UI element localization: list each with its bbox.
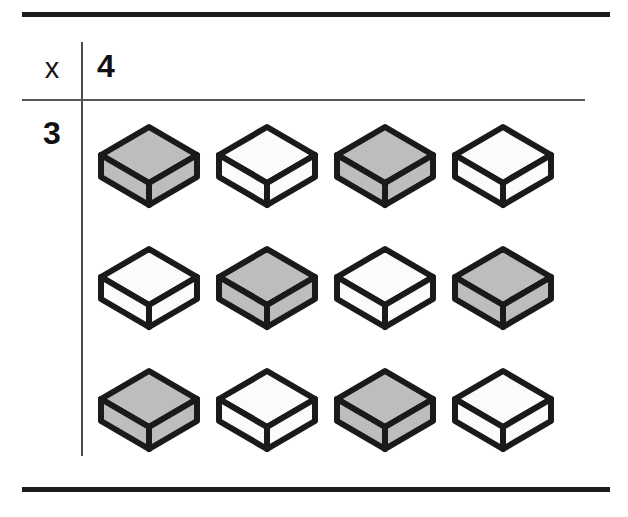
block-r2-c3[interactable] bbox=[332, 244, 438, 332]
bottom-rule bbox=[22, 487, 610, 492]
block-r3-c4[interactable] bbox=[450, 366, 556, 454]
block-r1-c4[interactable] bbox=[450, 122, 556, 210]
header-variable-label: x bbox=[31, 51, 73, 85]
block-r1-c2[interactable] bbox=[214, 122, 320, 210]
block-r2-c4[interactable] bbox=[450, 244, 556, 332]
worksheet-page: x 4 3 bbox=[0, 0, 628, 517]
block-r3-c2[interactable] bbox=[214, 366, 320, 454]
top-rule bbox=[22, 12, 610, 17]
header-rule bbox=[22, 99, 585, 101]
block-r1-c1[interactable] bbox=[96, 122, 202, 210]
block-r1-c3[interactable] bbox=[332, 122, 438, 210]
block-r2-c2[interactable] bbox=[214, 244, 320, 332]
block-r3-c1[interactable] bbox=[96, 366, 202, 454]
block-r3-c3[interactable] bbox=[332, 366, 438, 454]
block-r2-c1[interactable] bbox=[96, 244, 202, 332]
column-divider bbox=[81, 42, 83, 456]
header-multiplier-label: 4 bbox=[97, 47, 115, 85]
row-count-label: 3 bbox=[31, 114, 73, 152]
